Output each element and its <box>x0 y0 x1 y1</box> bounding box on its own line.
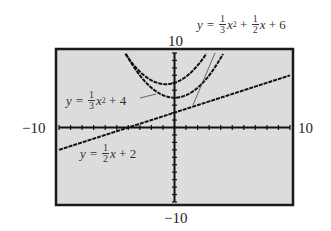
xmin-label: −10 <box>22 121 45 136</box>
xmax-label: 10 <box>298 121 313 136</box>
equation-label-quadratic-linear: y = 13 x2 + 12 x + 6 <box>197 14 286 35</box>
equation-label-quadratic: y = 13 x2 + 4 <box>66 90 126 111</box>
ymax-label: 10 <box>168 34 183 49</box>
equation-label-linear: y = 12 x + 2 <box>80 143 136 164</box>
ymin-label: −10 <box>164 211 187 226</box>
